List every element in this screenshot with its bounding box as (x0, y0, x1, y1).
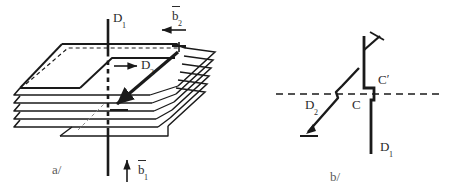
figure-root: D1 D2 b2 b1 a/ D2 C C′ D1 b/ (0, 0, 454, 195)
panel-b-graphics (276, 32, 443, 154)
label-d1-panel-a-sub: 1 (122, 21, 126, 30)
caption-panel-b: b/ (330, 170, 340, 183)
d1-top-arrow-b (364, 32, 384, 50)
label-d1-panel-a: D1 (113, 11, 126, 28)
label-b2-panel-a: b2 (172, 9, 183, 26)
label-b2-panel-a-sub: 2 (178, 19, 182, 28)
label-d1-panel-b-sub: 1 (389, 150, 393, 159)
figure-canvas (0, 0, 454, 195)
caption-panel-a: a/ (52, 163, 61, 176)
stacked-sheet-left-edges (14, 88, 26, 127)
b2-overbar (172, 6, 180, 7)
label-d2-panel-b-sub: 2 (314, 108, 318, 117)
label-d2-panel-a-sub: 2 (150, 68, 154, 77)
label-d2-panel-a: D2 (141, 58, 154, 75)
dislocation-line-d2-a (110, 42, 186, 110)
label-c-panel-b: C (352, 98, 361, 111)
lower-sheet-hidden-guide (78, 104, 104, 130)
label-c-prime-base: C (378, 72, 387, 87)
label-c-prime-mark: ′ (387, 72, 390, 86)
label-b1-panel-a: b1 (138, 163, 149, 180)
label-d1-panel-a-base: D (113, 10, 122, 25)
b1-overbar (138, 160, 146, 161)
label-c-prime-panel-b: C′ (378, 73, 389, 86)
label-d2-panel-b-base: D (305, 97, 314, 112)
label-d2-panel-a-base: D (141, 57, 150, 72)
label-d2-panel-b: D2 (305, 98, 318, 115)
panel-a-graphics (14, 19, 215, 182)
stacked-sheet-front-faces (26, 95, 158, 127)
d2-end-arrowhead-b (300, 124, 318, 136)
dislocation-line-d1-b (364, 36, 374, 154)
label-b1-panel-a-sub: 1 (144, 173, 148, 182)
label-d1-panel-b-base: D (380, 139, 389, 154)
label-d1-panel-b: D1 (380, 140, 393, 157)
